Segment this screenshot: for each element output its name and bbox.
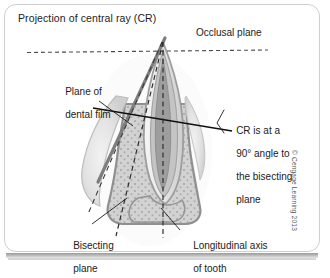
label-bisecting-plane-line1: Bisecting xyxy=(73,240,114,251)
label-plane-of-dental-film-line2: dental film xyxy=(65,109,111,120)
panel-shadow-bar-secondary xyxy=(8,258,316,260)
occlusal-plane-line xyxy=(27,50,268,53)
label-longitudinal-axis-line2: of tooth xyxy=(193,263,226,274)
label-bisecting-plane-line2: plane xyxy=(73,263,97,274)
label-cr-angle-line2: 90° angle to xyxy=(236,148,290,159)
label-cr-angle-line4: plane xyxy=(236,194,260,205)
label-plane-of-dental-film-line1: Plane of xyxy=(65,86,102,97)
label-longitudinal-axis-line1: Longitudinal axis xyxy=(193,240,268,251)
label-occlusal-plane: Occlusal plane xyxy=(196,27,262,39)
label-plane-of-dental-film: Plane of dental film xyxy=(54,74,111,132)
label-cr-angle-line3: the bisecting xyxy=(236,171,292,182)
label-cr-angle: CR is at a 90° angle to the bisecting pl… xyxy=(225,113,292,217)
figure-title: Projection of central ray (CR) xyxy=(18,12,156,24)
label-cr-angle-line1: CR is at a xyxy=(236,125,280,136)
copyright-notice: © Cengage Learning 2013 xyxy=(291,150,298,250)
